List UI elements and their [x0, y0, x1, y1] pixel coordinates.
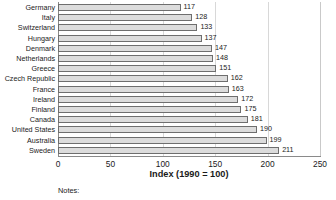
bar-row[interactable]: 181	[58, 115, 320, 125]
bar[interactable]	[58, 75, 228, 82]
bar-value-label: 163	[232, 84, 244, 94]
bar[interactable]	[58, 45, 212, 52]
bar-row[interactable]: 175	[58, 105, 320, 115]
category-label-finland: Finland	[31, 105, 55, 115]
bar-row[interactable]: 151	[58, 64, 320, 74]
bar-value-label: 137	[205, 33, 217, 43]
bar-value-label: 133	[200, 22, 212, 32]
bar[interactable]	[58, 65, 216, 72]
bar-rows: 1171281331371471481511621631721751811901…	[58, 2, 320, 156]
bar-value-label: 199	[270, 135, 282, 145]
bar[interactable]	[58, 96, 238, 103]
bar[interactable]	[58, 147, 279, 154]
category-label-italy: Italy	[42, 13, 55, 23]
category-label-australia: Australia	[27, 136, 55, 146]
bar-value-label: 148	[216, 53, 228, 63]
category-label-canada: Canada	[30, 115, 55, 125]
x-axis-line	[58, 156, 321, 157]
bar[interactable]	[58, 86, 229, 93]
category-label-germany: Germany	[25, 3, 55, 13]
bar-value-label: 181	[251, 114, 263, 124]
bar[interactable]	[58, 24, 197, 31]
bar-row[interactable]: 128	[58, 13, 320, 23]
bar-row[interactable]: 147	[58, 44, 320, 54]
bar[interactable]	[58, 4, 181, 11]
bar-value-label: 162	[231, 73, 243, 83]
bar-row[interactable]: 163	[58, 85, 320, 95]
category-label-ireland: Ireland	[33, 95, 55, 105]
bar-value-label: 175	[244, 104, 256, 114]
category-axis-labels: GermanyItalySwitzerlandHungaryDenmarkNet…	[0, 2, 55, 156]
category-label-sweden: Sweden	[29, 146, 55, 156]
bar-value-label: 172	[241, 94, 253, 104]
plot-area: 1171281331371471481511621631721751811901…	[58, 2, 320, 156]
bar-row[interactable]: 137	[58, 34, 320, 44]
notes-label: Notes:	[58, 186, 79, 195]
bar-chart: GermanyItalySwitzerlandHungaryDenmarkNet…	[0, 0, 336, 200]
bar-value-label: 117	[184, 2, 195, 12]
category-label-france: France	[33, 85, 55, 95]
category-label-czech-republic: Czech Republic	[5, 74, 55, 84]
bar[interactable]	[58, 35, 202, 42]
bar-value-label: 147	[215, 43, 227, 53]
bar-row[interactable]: 148	[58, 54, 320, 64]
bar-row[interactable]: 133	[58, 23, 320, 33]
bar[interactable]	[58, 116, 248, 123]
bar[interactable]	[58, 126, 257, 133]
bar-value-label: 211	[282, 145, 293, 155]
bar-value-label: 190	[260, 124, 272, 134]
category-label-denmark: Denmark	[26, 44, 55, 54]
bar-row[interactable]: 211	[58, 146, 320, 156]
category-label-greece: Greece	[31, 64, 55, 74]
category-label-switzerland: Switzerland	[18, 23, 55, 33]
bar[interactable]	[58, 14, 192, 21]
bar-row[interactable]: 172	[58, 95, 320, 105]
bar-row[interactable]: 199	[58, 136, 320, 146]
bar[interactable]	[58, 137, 267, 144]
category-label-netherlands: Netherlands	[16, 54, 55, 64]
bar-row[interactable]: 117	[58, 3, 320, 13]
bar[interactable]	[58, 55, 213, 62]
bar-value-label: 151	[219, 63, 231, 73]
bar[interactable]	[58, 106, 241, 113]
category-label-united-states: United States	[12, 125, 55, 135]
bar-row[interactable]: 162	[58, 74, 320, 84]
category-label-hungary: Hungary	[28, 34, 55, 44]
bar-value-label: 128	[195, 12, 207, 22]
gridline-250	[320, 2, 321, 156]
x-axis-title: Index (1990 = 100)	[58, 169, 320, 179]
